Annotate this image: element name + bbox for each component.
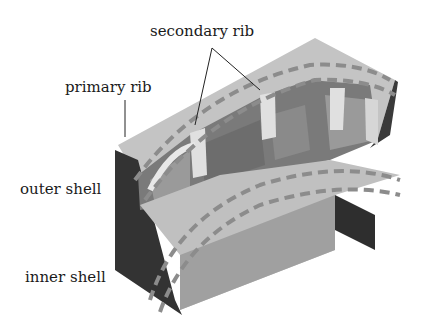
- label-secondary-rib: secondary rib: [150, 22, 254, 40]
- right-notch-face: [335, 195, 375, 250]
- shell-diagram: secondary rib primary rib outer shell in…: [0, 0, 425, 333]
- secondary-rib-3: [330, 88, 345, 130]
- label-primary-rib: primary rib: [65, 78, 152, 96]
- label-inner-shell: inner shell: [25, 268, 106, 286]
- secondary-rib-4: [365, 98, 378, 145]
- label-outer-shell: outer shell: [20, 180, 101, 198]
